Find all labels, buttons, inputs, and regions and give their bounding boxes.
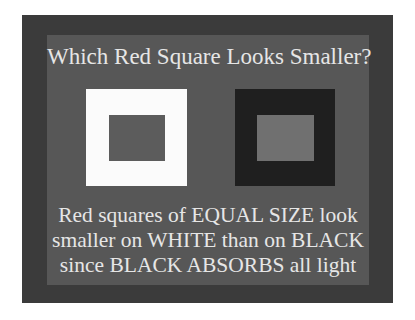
slide-caption: Red squares of EQUAL SIZE look smaller o… [47, 203, 369, 278]
red-square-on-black [257, 115, 314, 161]
caption-line: smaller on WHITE than on BLACK [47, 228, 369, 253]
slide-title: Which Red Square Looks Smaller? [47, 43, 369, 71]
caption-line: since BLACK ABSORBS all light [47, 253, 369, 278]
red-square-on-white [109, 115, 165, 161]
caption-line: Red squares of EQUAL SIZE look [47, 203, 369, 228]
